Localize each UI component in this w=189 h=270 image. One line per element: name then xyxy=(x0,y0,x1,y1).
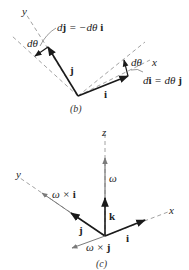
label-dtheta-top: dθ xyxy=(27,37,39,49)
figure-b: y x dθ dθ j i dj = −dθ i di = dθ j (b) xyxy=(12,5,182,115)
label-y: y xyxy=(21,5,27,17)
label-i: i xyxy=(126,232,129,244)
y-axis-rotated-dashed xyxy=(12,36,78,96)
label-x: x xyxy=(168,204,174,216)
equation-dj: dj = −dθ i xyxy=(57,21,103,33)
label-omega: ω xyxy=(109,172,117,184)
figure-c: z ω k y x j i ω × i ω × j (c) xyxy=(15,126,174,270)
vector-di-arrow xyxy=(124,60,128,76)
label-i: i xyxy=(104,88,107,100)
rotation-diagram: y x dθ dθ j i dj = −dθ i di = dθ j (b) z… xyxy=(0,0,189,270)
label-y: y xyxy=(15,168,21,180)
leader-dj xyxy=(40,28,56,46)
label-dtheta-right: dθ xyxy=(131,56,143,68)
label-z: z xyxy=(101,126,107,138)
caption-b: (b) xyxy=(70,103,82,115)
label-omega-cross-i: ω × i xyxy=(52,188,76,200)
label-x: x xyxy=(151,56,157,68)
label-j: j xyxy=(78,224,83,236)
vector-i-arrow xyxy=(78,76,128,96)
vector-i-arrow xyxy=(105,220,145,236)
vector-j-arrow xyxy=(71,213,105,236)
leader-di xyxy=(131,69,143,72)
caption-c: (c) xyxy=(96,258,108,270)
label-omega-cross-j: ω × j xyxy=(86,241,110,253)
equation-di: di = dθ j xyxy=(143,74,182,86)
label-k: k xyxy=(109,210,116,222)
label-j: j xyxy=(69,64,74,76)
x-axis-rotated-dashed xyxy=(78,42,145,96)
